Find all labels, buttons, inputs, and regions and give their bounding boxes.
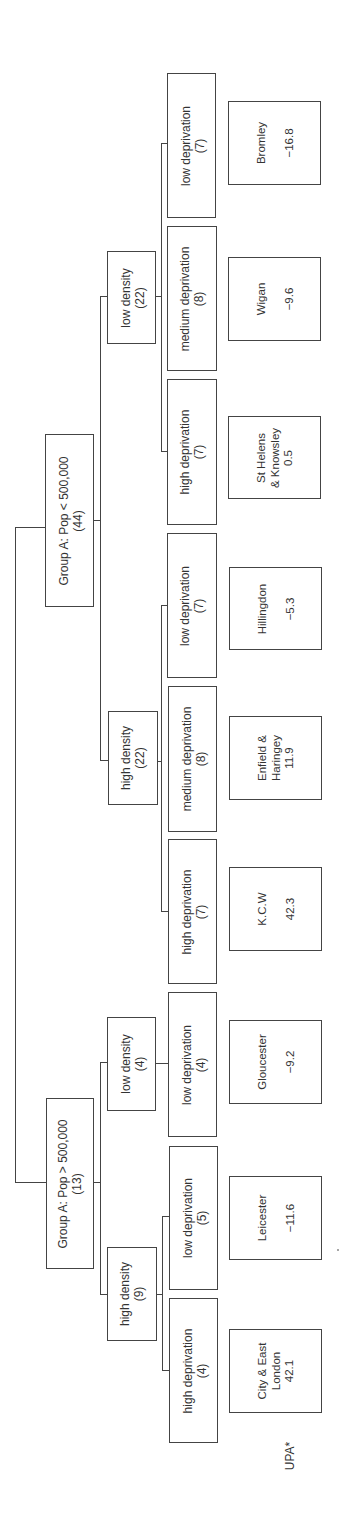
g1-hd-high-deprivation: high deprivation (4)	[169, 1298, 218, 1443]
g2-ld-high-deprivation: high deprivation (7)	[167, 379, 217, 525]
g2-ld-low-deprivation: low deprivation (7)	[167, 73, 216, 218]
g1-ld-low-deprivation: low deprivation (4)	[168, 992, 217, 1137]
leaf-value: −9.2	[283, 1051, 297, 1074]
g2-ld-deprivation-connector	[161, 143, 162, 452]
leaf-name: City & East	[255, 1343, 269, 1400]
g1-high-density: high density (9)	[107, 1247, 157, 1341]
g1-low-density: low density (4)	[107, 1017, 156, 1111]
node-label: low density	[118, 268, 132, 327]
node-label: high density	[118, 1262, 132, 1326]
g1-hd-deprivation-connector	[162, 1216, 163, 1371]
node-label: medium deprivation	[178, 246, 192, 351]
leaf-name: Bromley	[254, 122, 268, 164]
g2-ld-medium-deprivation: medium deprivation (8)	[167, 226, 217, 371]
node-count: (44)	[70, 510, 84, 531]
g1-density-connector	[100, 1062, 101, 1295]
node-count: (22)	[133, 747, 147, 768]
node-label: medium deprivation	[179, 707, 193, 812]
node-count: (7)	[192, 598, 206, 613]
leaf-city-east-london: City & East London 42.1	[229, 1329, 322, 1413]
node-count: (7)	[192, 445, 206, 460]
leaf-name: St Helens	[254, 433, 268, 483]
g2-low-density: low density (22)	[107, 251, 156, 344]
upa-row-label: UPA*	[283, 1442, 297, 1470]
g1-ld-to-low-connector	[156, 1063, 168, 1064]
group-pop-under-500k: Group A: Pop < 500,000 (44)	[45, 434, 94, 607]
g2-hd-deprivation-connector	[161, 605, 162, 912]
leaf-name: Gloucester	[255, 1034, 269, 1090]
root-to-g1-connector	[15, 1182, 46, 1183]
group-pop-over-500k: Group A: Pop > 500,000 (13)	[46, 1098, 94, 1269]
leaf-kcw: K.C.W 42.3	[229, 867, 322, 951]
root-to-g2-connector	[15, 527, 45, 528]
node-count: (22)	[132, 287, 146, 308]
leaf-name-line2: & Knowsley	[268, 427, 282, 487]
node-label: high deprivation	[179, 869, 193, 954]
g2-hd-low-deprivation: low deprivation (7)	[167, 533, 217, 678]
leaf-name: K.C.W	[255, 892, 269, 925]
leaf-gloucester: Gloucester −9.2	[229, 1020, 322, 1104]
leaf-name-line2: Haringey	[269, 735, 283, 781]
leaf-value: 11.9	[282, 747, 296, 769]
node-label: high deprivation	[178, 410, 192, 495]
leaf-name-line2: London	[269, 1352, 283, 1390]
g1-hd-to-high-connector	[162, 1370, 169, 1371]
leaf-enfield-haringey: Enfield & Haringey 11.9	[229, 716, 322, 800]
leaf-value: 42.3	[283, 898, 297, 920]
node-count: (13)	[70, 1173, 84, 1194]
g2-to-low-density-connector	[100, 296, 107, 297]
node-label: low deprivation	[178, 105, 192, 185]
leaf-value: −11.6	[283, 1204, 297, 1232]
leaf-value: 0.5	[281, 450, 295, 466]
leaf-wigan: Wigan −9.6	[228, 257, 321, 341]
node-count: (9)	[132, 1287, 146, 1302]
g2-hd-high-deprivation: high deprivation (7)	[168, 839, 217, 984]
node-label: low deprivation	[179, 1024, 193, 1104]
node-label: Group A: Pop > 500,000	[56, 1119, 70, 1248]
leaf-name: Enfield &	[255, 735, 269, 781]
node-label: high density	[119, 726, 133, 790]
leaf-bromley: Bromley −16.8	[228, 101, 321, 185]
node-count: (7)	[193, 904, 207, 919]
leaf-value: 42.1	[282, 1360, 296, 1382]
scan-artifact-dot	[337, 1249, 339, 1251]
g1-to-high-density-connector	[100, 1294, 107, 1295]
node-label: Group A: Pop < 500,000	[56, 456, 70, 585]
leaf-name: Hillingdon	[255, 583, 269, 634]
node-count: (4)	[194, 1363, 208, 1378]
g1-hd-to-low-connector	[162, 1216, 169, 1217]
leaf-name: Leicester	[255, 1195, 269, 1242]
leaf-value: −9.6	[282, 288, 296, 311]
node-count: (4)	[132, 1057, 146, 1072]
g2-to-high-density-connector	[100, 760, 108, 761]
g2-density-connector	[100, 296, 101, 761]
node-count: (4)	[193, 1057, 207, 1072]
g1-to-low-density-connector	[100, 1062, 107, 1063]
leaf-leicester: Leicester −11.6	[229, 1176, 322, 1260]
leaf-st-helens-knowsley: St Helens & Knowsley 0.5	[228, 416, 321, 499]
g2-hd-to-high-connector	[161, 911, 168, 912]
leaf-name: Wigan	[254, 283, 268, 316]
g2-high-density: high density (22)	[108, 711, 158, 805]
node-label: high deprivation	[180, 1328, 194, 1413]
leaf-hillingdon: Hillingdon −5.3	[229, 567, 322, 650]
node-count: (5)	[194, 1211, 208, 1226]
node-count: (7)	[192, 138, 206, 153]
node-count: (8)	[192, 291, 206, 306]
leaf-value: −16.8	[282, 128, 296, 157]
g2-hd-medium-deprivation: medium deprivation (8)	[168, 686, 217, 832]
node-count: (8)	[193, 752, 207, 767]
node-label: low deprivation	[180, 1178, 194, 1258]
node-label: low density	[118, 1034, 132, 1093]
classification-tree-diagram: Group A: Pop > 500,000 (13) Group A: Pop…	[0, 0, 346, 1519]
node-label: low deprivation	[178, 565, 192, 645]
g1-hd-low-deprivation: low deprivation (5)	[169, 1146, 218, 1290]
root-connector	[15, 527, 16, 1183]
leaf-value: −5.3	[283, 597, 297, 620]
